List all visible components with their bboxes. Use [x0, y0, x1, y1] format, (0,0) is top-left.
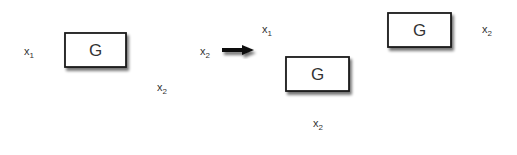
left-input-label: x1: [24, 45, 35, 60]
right-feed-block-label: G: [311, 65, 324, 84]
block-diagram: x1 G x2 x2 x1 G x2 G x2: [0, 0, 517, 155]
right-diagram: x1 G x2 G x2: [262, 13, 493, 132]
right-feed-input-label: x2: [313, 117, 324, 132]
left-diagram: x1 G x2 x2: [24, 33, 211, 96]
right-output-label: x2: [482, 23, 493, 38]
left-block-label: G: [89, 41, 102, 60]
equivalence-arrow: [222, 45, 254, 55]
right-input-label: x1: [262, 23, 273, 38]
right-main-block-label: G: [413, 21, 426, 40]
left-output-label: x2: [200, 45, 211, 60]
left-branch-label: x2: [157, 81, 168, 96]
